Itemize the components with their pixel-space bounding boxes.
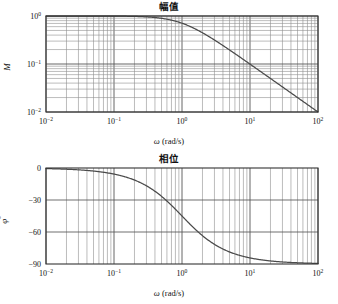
svg-text:10−1: 10−1	[27, 59, 41, 69]
svg-text:100: 100	[177, 116, 188, 126]
bode-plot-figure: 幅值 M ω (rad/s) 10−210−110010110210010−11…	[0, 0, 338, 304]
svg-text:10−1: 10−1	[107, 268, 121, 278]
svg-text:10−1: 10−1	[107, 116, 121, 126]
phase-panel: 相位 φ° ω (rad/s) 10−210−11001011020−30−60…	[0, 152, 338, 304]
svg-text:102: 102	[313, 116, 324, 126]
svg-text:−60: −60	[28, 228, 41, 237]
svg-text:101: 101	[245, 268, 256, 278]
svg-text:10−2: 10−2	[39, 116, 53, 126]
phase-plot-canvas: 10−210−11001011020−30−60−90	[0, 152, 338, 304]
svg-text:10−2: 10−2	[39, 268, 53, 278]
svg-text:102: 102	[313, 268, 324, 278]
magnitude-panel: 幅值 M ω (rad/s) 10−210−110010110210010−11…	[0, 0, 338, 152]
svg-text:0: 0	[37, 164, 41, 173]
svg-text:100: 100	[30, 11, 41, 21]
svg-text:10−2: 10−2	[27, 107, 41, 117]
svg-text:−90: −90	[28, 260, 41, 269]
svg-text:101: 101	[245, 116, 256, 126]
magnitude-plot-canvas: 10−210−110010110210010−110−2	[0, 0, 338, 152]
svg-text:100: 100	[177, 268, 188, 278]
svg-text:−30: −30	[28, 196, 41, 205]
